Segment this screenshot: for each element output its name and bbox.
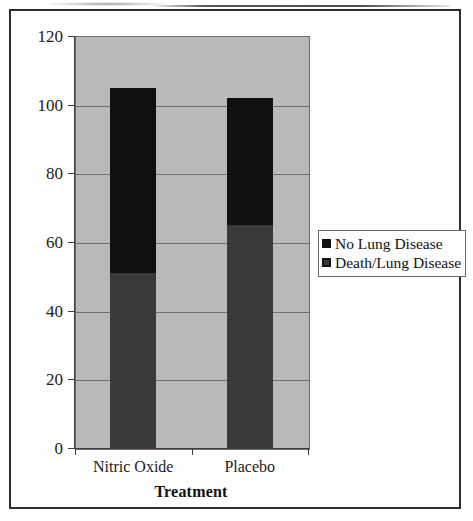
x-tick-label: Placebo — [224, 458, 275, 476]
y-axis-tick-labels: 120100806040200 — [11, 11, 63, 507]
y-tick-mark — [68, 379, 74, 380]
chart-frame: 120100806040200 Treatment No Lung Diseas… — [9, 9, 461, 509]
y-tick-mark — [68, 311, 74, 312]
y-tick-label: 100 — [17, 97, 63, 114]
x-axis-title: Treatment — [11, 483, 371, 501]
chart-legend: No Lung Disease Death/Lung Disease — [318, 230, 466, 277]
y-tick-mark — [68, 173, 74, 174]
y-tick-label: 60 — [17, 234, 63, 251]
x-tick-mark — [308, 449, 309, 455]
legend-item[interactable]: No Lung Disease — [322, 234, 461, 253]
x-tick-label: Nitric Oxide — [93, 458, 173, 476]
bar-segment[interactable] — [227, 98, 273, 225]
y-tick-label: 0 — [17, 440, 63, 457]
x-tick-mark — [192, 449, 193, 455]
y-tick-label: 40 — [17, 303, 63, 320]
y-tick-mark — [68, 448, 74, 449]
legend-swatch-death-lung-disease — [322, 258, 331, 267]
bar-segment[interactable] — [227, 225, 273, 448]
y-tick-label: 20 — [17, 371, 63, 388]
y-tick-mark — [68, 105, 74, 106]
legend-label: No Lung Disease — [335, 236, 443, 252]
y-tick-mark — [68, 36, 74, 37]
bar-segment[interactable] — [110, 88, 156, 273]
bar-segment[interactable] — [110, 273, 156, 448]
y-axis-line — [74, 36, 75, 449]
y-tick-mark — [68, 242, 74, 243]
legend-item[interactable]: Death/Lung Disease — [322, 253, 461, 272]
scan-artifact-line — [150, 5, 450, 7]
x-tick-mark — [75, 449, 76, 455]
y-tick-label: 120 — [17, 28, 63, 45]
legend-swatch-no-lung-disease — [322, 239, 331, 248]
legend-label: Death/Lung Disease — [335, 255, 461, 271]
y-tick-label: 80 — [17, 165, 63, 182]
